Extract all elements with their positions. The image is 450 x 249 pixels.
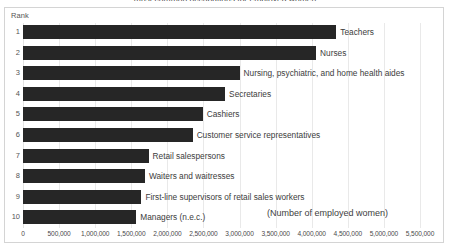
bar-rank-number: 10 <box>12 212 20 222</box>
bar <box>23 87 225 101</box>
bar-label: Customer service representatives <box>197 129 321 141</box>
bar-rank-number: 6 <box>16 130 20 140</box>
x-axis-tick-label: 0 <box>21 230 25 237</box>
bar <box>23 210 136 224</box>
bar-row: 5Cashiers <box>23 107 438 121</box>
bar-label: Teachers <box>340 26 374 38</box>
x-axis-tick-label: 2,000,000 <box>153 230 181 237</box>
bar-rank-number: 9 <box>16 192 20 202</box>
bar <box>23 25 336 39</box>
x-axis-tick-label: 2,500,000 <box>189 230 217 237</box>
bar-rank-number: 5 <box>16 109 20 119</box>
bar-row: 1Teachers <box>23 25 438 39</box>
x-axis-tick-labels: 0500,0001,000,0001,500,0002,000,0002,500… <box>23 230 438 242</box>
bar-label: Nursing, psychiatric, and home health ai… <box>244 67 405 79</box>
bar-rank-number: 7 <box>16 151 20 161</box>
x-axis-tick-label: 3,000,000 <box>225 230 253 237</box>
bar-row: 7Retail salespersons <box>23 149 438 163</box>
bar-row: 4Secretaries <box>23 87 438 101</box>
bar-row: 3Nursing, psychiatric, and home health a… <box>23 66 438 80</box>
bar-label: Nurses <box>320 47 346 59</box>
bar-rank-number: 3 <box>16 68 20 78</box>
bar-rank-number: 1 <box>16 27 20 37</box>
plot-area: 1Teachers2Nurses3Nursing, psychiatric, a… <box>23 23 438 228</box>
bar <box>23 46 316 60</box>
bar-row: 9First-line supervisors of retail sales … <box>23 190 438 204</box>
x-axis-tick-label: 500,000 <box>48 230 71 237</box>
bar-rank-number: 4 <box>16 89 20 99</box>
bar-row: 6Customer service representatives <box>23 128 438 142</box>
x-axis-tick-label: 3,500,000 <box>261 230 289 237</box>
bar <box>23 149 149 163</box>
bar-label: First-line supervisors of retail sales w… <box>145 191 304 203</box>
bar <box>23 66 240 80</box>
bar-row: 2Nurses <box>23 46 438 60</box>
bar-rank-number: 2 <box>16 48 20 58</box>
bar <box>23 169 145 183</box>
x-axis-tick-label: 5,500,000 <box>406 230 434 237</box>
x-axis-tick-label: 1,500,000 <box>117 230 145 237</box>
x-axis-tick-label: 5,000,000 <box>370 230 398 237</box>
bar-label: Secretaries <box>229 88 271 100</box>
bar <box>23 107 203 121</box>
rank-axis-header: Rank <box>11 11 29 20</box>
bar-rank-number: 8 <box>16 171 20 181</box>
x-axis-tick-label: 1,000,000 <box>81 230 109 237</box>
clipped-header-text: most common occupations for employed wom… <box>0 0 450 1</box>
bar-row: 8Waiters and waitresses <box>23 169 438 183</box>
x-axis-title: (Number of employed women) <box>267 208 388 218</box>
bar <box>23 190 141 204</box>
chart-container: Rank 1Teachers2Nurses3Nursing, psychiatr… <box>4 7 444 243</box>
bar-label: Cashiers <box>207 108 240 120</box>
bar <box>23 128 193 142</box>
bar-label: Managers (n.e.c.) <box>140 211 205 223</box>
x-axis-tick-label: 4,000,000 <box>298 230 326 237</box>
x-axis-tick-label: 4,500,000 <box>334 230 362 237</box>
bar-label: Waiters and waitresses <box>149 170 234 182</box>
bar-label: Retail salespersons <box>153 150 225 162</box>
